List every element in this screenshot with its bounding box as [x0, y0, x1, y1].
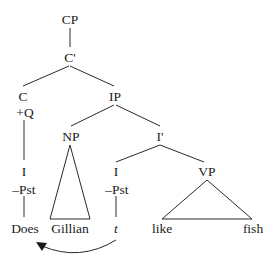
word-trace: t	[114, 221, 119, 236]
node-moved-i-feature: –Pst	[11, 182, 36, 197]
movement-arrow	[42, 240, 116, 253]
edge-cbar-c	[23, 66, 69, 86]
np-triangle	[50, 145, 90, 219]
node-np: NP	[62, 129, 79, 144]
node-c: C	[18, 89, 27, 104]
syntax-tree: CP C' C +Q IP NP I' I –Pst Does Gillian …	[0, 0, 277, 267]
node-vp: VP	[198, 164, 215, 179]
word-does: Does	[11, 221, 39, 236]
edge-ibar-i	[116, 145, 160, 162]
arrowhead-icon	[36, 242, 47, 251]
edge-ibar-vp	[160, 145, 204, 162]
word-like: like	[152, 221, 172, 236]
edge-cbar-ip	[70, 66, 114, 86]
node-ip: IP	[109, 89, 121, 104]
node-trace-i: I	[114, 164, 119, 179]
node-moved-i: I	[22, 164, 27, 179]
edge-ip-ibar	[116, 105, 160, 126]
word-gillian: Gillian	[51, 221, 89, 236]
edge-ip-np	[71, 105, 114, 126]
node-c-bar: C'	[64, 50, 75, 65]
node-c-feature: +Q	[16, 105, 34, 120]
node-i-bar: I'	[157, 129, 164, 144]
node-trace-i-feature: –Pst	[104, 182, 129, 197]
word-fish: fish	[243, 221, 264, 236]
node-cp: CP	[62, 12, 79, 27]
vp-triangle	[162, 180, 252, 219]
